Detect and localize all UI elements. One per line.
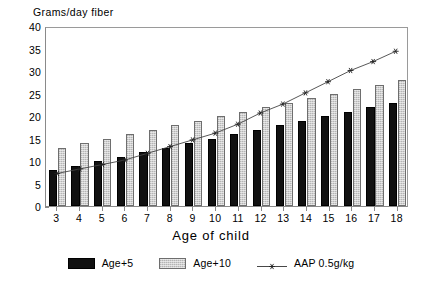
aap-marker-age-13 — [280, 101, 286, 106]
x-axis-tick — [306, 207, 307, 211]
x-axis-tick — [215, 207, 216, 211]
aap-line-series — [46, 28, 407, 207]
y-axis-tick-label: 10 — [17, 156, 41, 168]
aap-marker-age-11 — [235, 122, 241, 127]
gray-bar-swatch — [159, 258, 186, 269]
x-axis-tick-label-9: 9 — [189, 212, 195, 224]
x-axis-tick — [374, 207, 375, 211]
x-axis-tick-label-5: 5 — [99, 212, 105, 224]
x-axis-tick-label-6: 6 — [121, 212, 127, 224]
aap-marker-age-10 — [212, 131, 218, 136]
aap-marker-age-16 — [348, 68, 354, 73]
y-axis-tick-label: 0 — [17, 201, 41, 213]
aap-marker-age-3 — [54, 171, 60, 176]
x-axis-tick-label-17: 17 — [368, 212, 380, 224]
aap-marker-age-15 — [325, 79, 331, 84]
x-axis-tick — [124, 207, 125, 211]
x-axis-tick-label-10: 10 — [209, 212, 221, 224]
aap-marker-age-14 — [302, 90, 308, 95]
x-axis-tick-label-16: 16 — [345, 212, 357, 224]
aap-line-path — [57, 51, 395, 173]
aap-marker-age-17 — [370, 59, 376, 64]
legend-item-aap-0-5g-kg[interactable]: AAP 0.5g/kg — [257, 257, 354, 269]
aap-marker-age-6 — [122, 157, 128, 162]
x-axis-tick-label-15: 15 — [323, 212, 335, 224]
x-axis-title: Age of child — [0, 228, 422, 243]
aap-marker-age-9 — [190, 137, 196, 142]
legend-item-age-10[interactable]: Age+10 — [159, 257, 231, 269]
x-axis-tick — [102, 207, 103, 211]
aap-marker-age-12 — [257, 110, 263, 115]
x-axis-tick — [283, 207, 284, 211]
x-axis-tick — [238, 207, 239, 211]
y-axis-tick — [45, 207, 49, 208]
x-axis-tick-label-7: 7 — [144, 212, 150, 224]
aap-marker-age-5 — [99, 162, 105, 167]
y-axis-tick-label: 5 — [17, 179, 41, 191]
aap-marker-age-4 — [77, 166, 83, 171]
x-axis-tick — [397, 207, 398, 211]
x-axis-tick — [261, 207, 262, 211]
legend-item-age-5[interactable]: Age+5 — [68, 257, 134, 269]
chart-legend: Age+5Age+10AAP 0.5g/kg — [0, 257, 422, 269]
y-axis-tick-label: 40 — [17, 21, 41, 33]
y-axis-tick-label: 25 — [17, 89, 41, 101]
y-axis-tick-label: 20 — [17, 111, 41, 123]
x-axis-tick-label-14: 14 — [300, 212, 312, 224]
x-axis-tick-label-12: 12 — [254, 212, 266, 224]
x-axis-tick — [79, 207, 80, 211]
x-axis-tick — [351, 207, 352, 211]
x-axis-tick-label-11: 11 — [232, 212, 243, 224]
legend-label: Age+10 — [193, 257, 231, 269]
legend-label: AAP 0.5g/kg — [294, 257, 354, 269]
x-axis-tick — [170, 207, 171, 211]
aap-marker-age-18 — [393, 49, 399, 54]
y-axis-title: Grams/day fiber — [33, 6, 114, 18]
y-axis-tick-label: 35 — [17, 44, 41, 56]
y-axis-tick-label: 15 — [17, 134, 41, 146]
y-axis-tick-label: 30 — [17, 66, 41, 78]
x-axis-tick-label-3: 3 — [53, 212, 59, 224]
x-axis-tick-label-8: 8 — [167, 212, 173, 224]
x-axis-tick-label-18: 18 — [391, 212, 403, 224]
x-axis-tick-label-4: 4 — [76, 212, 82, 224]
aap-marker-age-8 — [167, 144, 173, 149]
line-star-swatch — [257, 258, 287, 269]
x-axis-tick — [192, 207, 193, 211]
fiber-intake-bar-chart: Grams/day fiber 0510152025303540 3456789… — [0, 0, 422, 292]
plot-area — [45, 27, 408, 207]
black-bar-swatch — [68, 258, 95, 269]
legend-label: Age+5 — [102, 257, 134, 269]
x-axis-tick — [147, 207, 148, 211]
x-axis-tick-label-13: 13 — [277, 212, 289, 224]
x-axis-tick — [56, 207, 57, 211]
aap-marker-age-7 — [145, 151, 151, 156]
x-axis-tick — [329, 207, 330, 211]
